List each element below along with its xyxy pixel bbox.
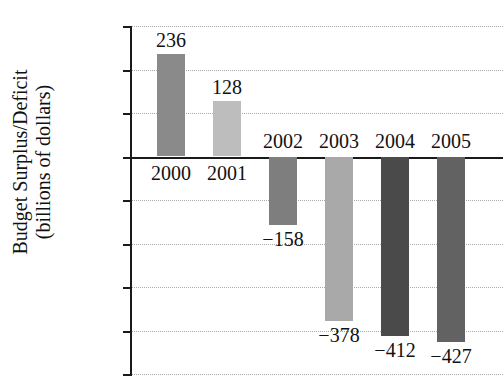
bar-2005 <box>437 157 465 343</box>
y-axis-tick <box>123 287 132 289</box>
y-axis-tick <box>123 113 132 115</box>
bar-2003 <box>325 157 353 321</box>
y-axis-title: Budget Surplus/Deficit (billions of doll… <box>0 2 64 322</box>
y-axis-tick <box>123 26 132 28</box>
value-label-2005: −427 <box>420 346 482 366</box>
y-axis-tick <box>123 374 132 376</box>
chart-title <box>0 0 503 8</box>
y-axis-title-line-1: Budget Surplus/Deficit <box>9 70 32 255</box>
y-axis-tick <box>123 200 132 202</box>
budget-surplus-deficit-bar-chart: Budget Surplus/Deficit (billions of doll… <box>0 0 503 388</box>
bar-2004 <box>381 157 409 336</box>
category-label-2004: 2004 <box>364 131 426 151</box>
bar-2001 <box>213 101 241 157</box>
value-label-2004: −412 <box>364 340 426 360</box>
y-axis-tick <box>123 331 132 333</box>
category-label-2003: 2003 <box>308 131 370 151</box>
value-label-2003: −378 <box>308 325 370 345</box>
gridline <box>132 113 503 114</box>
bar-2002 <box>269 157 297 226</box>
y-axis-title-line-2: (billions of dollars) <box>32 85 55 239</box>
y-axis-tick <box>123 244 132 246</box>
category-label-2000: 2000 <box>140 163 202 183</box>
bar-2000 <box>157 54 185 157</box>
category-label-2002: 2002 <box>252 131 314 151</box>
y-axis-tick <box>123 157 132 159</box>
category-label-2001: 2001 <box>196 163 258 183</box>
value-label-2002: −158 <box>252 229 314 249</box>
gridline <box>132 374 503 375</box>
gridline <box>132 26 503 27</box>
y-axis-tick <box>123 70 132 72</box>
value-label-2000: 236 <box>140 30 202 50</box>
value-label-2001: 128 <box>196 77 258 97</box>
category-label-2005: 2005 <box>420 131 482 151</box>
plot-area: 3002001000−100−200−300−400−500 236128−15… <box>130 26 503 374</box>
gridline <box>132 70 503 71</box>
